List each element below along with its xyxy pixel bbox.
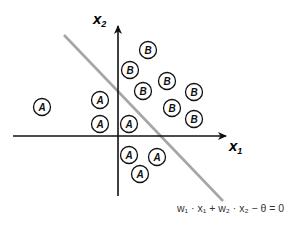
point-class-b: B: [159, 73, 176, 90]
point-label: B: [163, 76, 170, 87]
point-label: A: [95, 95, 103, 106]
point-class-a: A: [121, 116, 138, 133]
point-class-a: A: [149, 149, 166, 166]
point-class-b: B: [140, 42, 157, 59]
point-class-b: B: [186, 84, 203, 101]
point-label: B: [168, 103, 175, 114]
point-class-a: A: [92, 116, 109, 133]
point-class-a: A: [92, 92, 109, 109]
point-label: A: [95, 119, 103, 130]
point-label: B: [190, 114, 197, 125]
decision-boundary-diagram: x1 x2 AAAAAAABBBBBBB w₁ · x₁ + w₂ · x₂ −…: [0, 0, 293, 227]
x1-axis-label: x1: [228, 137, 242, 156]
point-class-a: A: [34, 99, 51, 116]
point-class-a: A: [121, 147, 138, 164]
point-class-b: B: [186, 111, 203, 128]
boundary-equation: w₁ · x₁ + w₂ · x₂ − θ = 0: [176, 202, 284, 214]
point-label: A: [135, 169, 143, 180]
point-class-b: B: [122, 62, 139, 79]
point-class-a: A: [132, 166, 149, 183]
point-label: A: [37, 102, 45, 113]
point-class-b: B: [164, 100, 181, 117]
x2-axis-label: x2: [92, 10, 106, 29]
point-label: A: [124, 119, 132, 130]
point-label: B: [190, 87, 197, 98]
point-label: B: [139, 86, 146, 97]
point-class-b: B: [135, 83, 152, 100]
point-label: A: [152, 152, 160, 163]
point-label: B: [126, 65, 133, 76]
point-label: A: [124, 150, 132, 161]
point-label: B: [144, 45, 151, 56]
